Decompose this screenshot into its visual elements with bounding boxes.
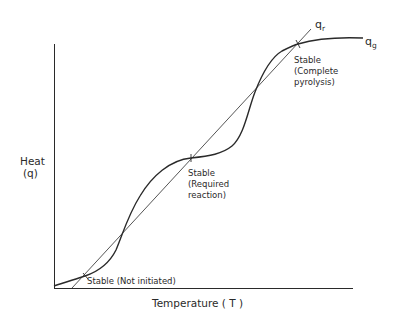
annotation-required-reaction: Stable (Required reaction) — [188, 168, 232, 200]
annotation-not-initiated: Stable (Not initiated) — [87, 276, 176, 286]
x-axis-title: Temperature ( T ) — [151, 297, 243, 309]
qr-label: qr — [315, 18, 326, 33]
annotation-complete-pyrolysis: Stable (Complete pyrolysis) — [294, 55, 341, 87]
heat-balance-diagram: qr qg Stable (Not initiated) Stable (Req… — [0, 0, 407, 326]
y-axis-title: Heat (q) — [20, 155, 48, 179]
qg-label: qg — [365, 35, 377, 50]
